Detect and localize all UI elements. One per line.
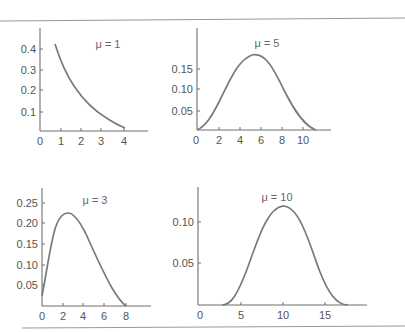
y-tick-label: 0.10 (172, 83, 193, 95)
x-tick-label: 10 (297, 134, 309, 146)
x-tick-label: 5 (238, 309, 244, 321)
curve (55, 44, 125, 128)
series-label: μ = 1 (96, 38, 121, 50)
x-tick-label: 4 (237, 134, 243, 146)
x-tick-label: 6 (258, 134, 264, 146)
y-tick-label: 0.15 (17, 238, 38, 250)
y-tick-label: 0.4 (21, 43, 36, 55)
curve (222, 206, 348, 305)
top-rule (0, 18, 405, 21)
y-tick-label: 0.3 (21, 64, 36, 76)
x-tick-label: 3 (98, 135, 104, 147)
x-tick-label: 2 (216, 134, 222, 146)
y-tick-label: 0.05 (173, 257, 194, 269)
x-tick-label: 0 (193, 134, 199, 146)
x-tick-label: 0 (37, 135, 43, 147)
panel-mu-3: 0.25 0.20 0.15 0.10 0.05 0 2 4 6 8 μ = 3 (17, 188, 151, 322)
figure-canvas: 0.4 0.3 0.2 0.1 0 1 2 3 4 μ = 1 0.15 0.1… (0, 0, 405, 332)
y-tick-label: 0.2 (21, 84, 36, 96)
x-tick-label: 6 (101, 310, 107, 322)
panel-mu-1: 0.4 0.3 0.2 0.1 0 1 2 3 4 μ = 1 (21, 28, 148, 147)
series-label: μ = 10 (261, 191, 292, 203)
panel-mu-5: 0.15 0.10 0.05 0 2 4 6 8 10 μ = 5 (172, 28, 331, 146)
x-tick-label: 8 (279, 134, 285, 146)
y-tick-label: 0.05 (172, 105, 193, 117)
curve (197, 55, 316, 130)
y-tick-label: 0.10 (17, 259, 38, 271)
x-tick-label: 10 (277, 309, 289, 321)
x-tick-label: 1 (58, 135, 64, 147)
y-tick-label: 0.1 (21, 106, 36, 118)
y-tick-label: 0.05 (17, 279, 38, 291)
y-tick-label: 0.20 (17, 217, 38, 229)
curve (42, 213, 126, 306)
x-tick-label: 4 (121, 135, 127, 147)
x-tick-label: 2 (60, 310, 66, 322)
x-tick-label: 0 (39, 310, 45, 322)
x-tick-label: 2 (78, 135, 84, 147)
y-tick-label: 0.10 (173, 216, 194, 228)
y-tick-label: 0.15 (172, 63, 193, 75)
y-tick-label: 0.25 (17, 197, 38, 209)
x-tick-label: 0 (197, 309, 203, 321)
series-label: μ = 3 (83, 194, 108, 206)
bottom-rule (22, 326, 405, 328)
panel-mu-10: 0.10 0.05 0 5 10 15 μ = 10 (173, 187, 367, 321)
x-tick-label: 8 (123, 310, 129, 322)
series-label: μ = 5 (255, 37, 280, 49)
x-tick-label: 15 (319, 309, 331, 321)
x-tick-label: 4 (80, 310, 86, 322)
